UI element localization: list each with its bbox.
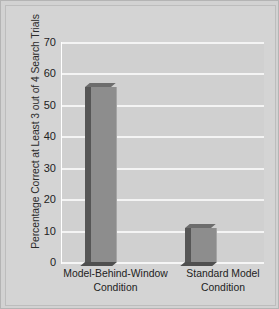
x-label-line-1: Standard Model: [175, 267, 271, 281]
bar-front-face: [191, 228, 217, 262]
x-label-line-1: Model-Behind-Window: [53, 267, 178, 281]
plot-area: [61, 42, 264, 264]
y-tick-label-10: 10: [11, 225, 61, 237]
y-tick-label-50: 50: [11, 99, 61, 111]
chart-figure: Percentage Correct at Least 3 out of 4 S…: [0, 0, 279, 309]
x-label-line-2: Condition: [53, 281, 178, 295]
y-tick-label-70: 70: [11, 36, 61, 48]
x-tick-label-model-behind-window: Model-Behind-Window Condition: [53, 267, 178, 294]
chart-frame: Percentage Correct at Least 3 out of 4 S…: [5, 5, 276, 306]
bar-group-model-behind-window: [85, 42, 117, 264]
y-tick-label-40: 40: [11, 130, 61, 142]
bar-bottom-face: [180, 262, 217, 266]
x-label-line-2: Condition: [175, 281, 271, 295]
y-tick-label-60: 60: [11, 67, 61, 79]
bar-model-behind-window[interactable]: [85, 83, 117, 262]
x-tick-label-standard-model: Standard Model Condition: [175, 267, 271, 294]
x-axis-tick-labels: Model-Behind-Window Condition Standard M…: [61, 267, 264, 309]
y-tick-label-30: 30: [11, 162, 61, 174]
bar-front-face: [91, 87, 117, 262]
y-axis-tick-labels: 70 60 50 40 30 20 10 0: [6, 42, 61, 264]
y-tick-label-20: 20: [11, 193, 61, 205]
bar-bottom-face: [80, 262, 117, 266]
bar-standard-model[interactable]: [185, 224, 217, 262]
bar-group-standard-model: [185, 42, 217, 264]
